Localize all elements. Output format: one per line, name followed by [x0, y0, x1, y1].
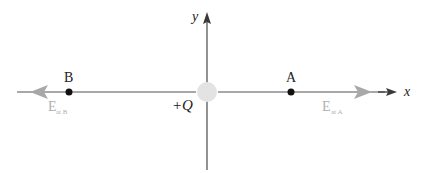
point-b-label: B [64, 70, 73, 85]
point-b-marker [66, 89, 73, 96]
field-label-a: E at A [322, 99, 342, 116]
svg-text:at A: at A [331, 108, 342, 116]
y-axis-label: y [190, 9, 199, 24]
svg-text:E: E [322, 99, 331, 114]
field-label-b: E at B [48, 99, 68, 116]
x-axis-label: x [403, 84, 411, 99]
point-a-marker [288, 89, 295, 96]
svg-text:at B: at B [56, 108, 68, 116]
charge-label: +Q [172, 97, 193, 113]
point-charge [197, 82, 217, 102]
x-axis-arrow-icon [378, 88, 397, 96]
electric-field-diagram: x y +Q B A E at B E at A [0, 0, 430, 173]
point-a-label: A [286, 70, 297, 85]
